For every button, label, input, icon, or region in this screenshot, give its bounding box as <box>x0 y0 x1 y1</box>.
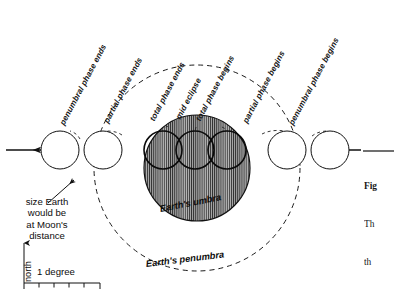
eclipse-diagram: penumbral phase ends partial phase ends … <box>0 0 394 291</box>
north-label: north <box>23 261 33 282</box>
moon-partial-phase-ends <box>84 131 122 169</box>
figure-caption: Fig Th th pe pa <box>364 155 394 291</box>
caption-line-3: th <box>364 256 394 269</box>
moon-penumbral-phase-ends <box>41 131 79 169</box>
earth-size-note: size Earth would be at Moon's distance <box>8 196 86 242</box>
moon-penumbral-phase-begins <box>311 131 349 169</box>
scale-degree-label: 1 degree <box>37 266 75 277</box>
caption-line-2: Th <box>364 218 394 231</box>
caption-line-1: Fig <box>364 181 377 191</box>
moon-partial-phase-begins <box>268 131 306 169</box>
